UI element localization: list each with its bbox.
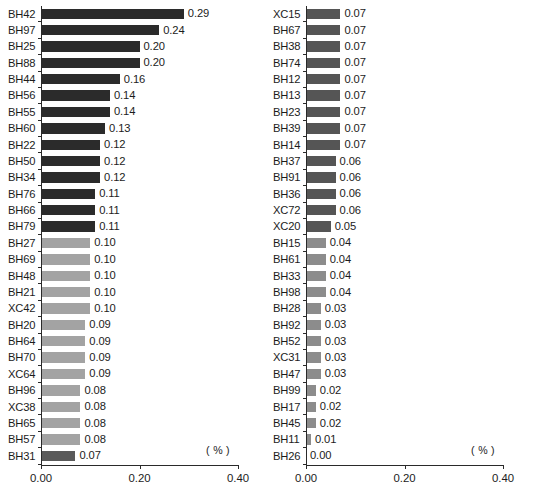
bar-track: 0.03 xyxy=(306,334,525,350)
bar-value-label: 0.04 xyxy=(330,271,351,282)
bar-row: BH380.07 xyxy=(273,39,525,55)
bar-value-label: 0.02 xyxy=(320,418,341,429)
bar-row: BH960.08 xyxy=(8,383,260,399)
bar-row: BH480.10 xyxy=(8,268,260,284)
bar-value-label: 0.02 xyxy=(320,385,341,396)
bar-row: BH140.07 xyxy=(273,137,525,153)
bar-row: XC380.08 xyxy=(8,399,260,415)
chart-panel-left: BH420.29BH970.24BH250.20BH880.20BH440.16… xyxy=(0,0,268,496)
bar-category-label: XC72 xyxy=(273,205,306,216)
bar-track: 0.13 xyxy=(41,121,260,137)
bar-row: XC310.03 xyxy=(273,350,525,366)
bar-category-label: BH98 xyxy=(273,287,306,298)
bar-value-label: 0.16 xyxy=(124,74,145,85)
bar-row: BH790.11 xyxy=(8,219,260,235)
bar-value-label: 0.09 xyxy=(89,320,110,331)
bar xyxy=(41,41,140,51)
x-tick xyxy=(238,465,239,469)
bar-value-label: 0.07 xyxy=(344,9,365,20)
bar-track: 0.07 xyxy=(306,72,525,88)
bar xyxy=(41,107,110,117)
bar-value-label: 0.11 xyxy=(99,221,120,232)
bar-value-label: 0.03 xyxy=(325,369,346,380)
bar-value-label: 0.08 xyxy=(84,418,105,429)
bar-value-label: 0.03 xyxy=(325,336,346,347)
x-tick xyxy=(405,465,406,469)
x-tick xyxy=(140,465,141,469)
bar xyxy=(306,107,340,117)
bar-row: BH150.04 xyxy=(273,235,525,251)
bar-track: 0.07 xyxy=(306,55,525,71)
bar-track: 0.10 xyxy=(41,301,260,317)
bar-category-label: BH76 xyxy=(8,189,41,200)
bar-category-label: BH56 xyxy=(8,90,41,101)
bar xyxy=(306,369,321,379)
bar-value-label: 0.10 xyxy=(94,287,115,298)
bar-track: 0.08 xyxy=(41,415,260,431)
bar xyxy=(41,336,85,346)
bar xyxy=(41,58,140,68)
bar-track: 0.08 xyxy=(41,399,260,415)
bar-track: 0.14 xyxy=(41,104,260,120)
bar xyxy=(41,369,85,379)
bar-category-label: BH60 xyxy=(8,123,41,134)
bar-value-label: 0.08 xyxy=(84,402,105,413)
bar xyxy=(41,123,105,133)
bar-track: 0.06 xyxy=(306,203,525,219)
bar xyxy=(306,172,336,182)
bar-category-label: BH12 xyxy=(273,74,306,85)
bar-value-label: 0.03 xyxy=(325,303,346,314)
bar xyxy=(306,58,340,68)
bar-value-label: 0.12 xyxy=(104,156,125,167)
bar-value-label: 0.07 xyxy=(344,41,365,52)
bar-row: BH170.02 xyxy=(273,399,525,415)
bar-row: BH200.09 xyxy=(8,317,260,333)
bar xyxy=(306,418,316,428)
bar-track: 0.07 xyxy=(306,22,525,38)
bar-value-label: 0.03 xyxy=(325,320,346,331)
bar-track: 0.03 xyxy=(306,317,525,333)
bar-value-label: 0.07 xyxy=(344,58,365,69)
bar xyxy=(306,189,336,199)
bar xyxy=(41,90,110,100)
bar xyxy=(41,172,100,182)
bar-row: BH440.16 xyxy=(8,72,260,88)
bar-row: BH420.29 xyxy=(8,6,260,22)
bar-category-label: BH23 xyxy=(273,107,306,118)
bar-value-label: 0.24 xyxy=(163,25,184,36)
bar-rows-left: BH420.29BH970.24BH250.20BH880.20BH440.16… xyxy=(8,6,260,465)
bar-category-label: BH65 xyxy=(8,418,41,429)
bar-track: 0.04 xyxy=(306,268,525,284)
bar-row: BH280.03 xyxy=(273,301,525,317)
bar-row: XC640.09 xyxy=(8,366,260,382)
bar-track: 0.07 xyxy=(306,137,525,153)
bar-row: BH610.04 xyxy=(273,252,525,268)
bar xyxy=(306,90,340,100)
bar-row: BH120.07 xyxy=(273,72,525,88)
bar-track: 0.20 xyxy=(41,55,260,71)
bar-category-label: XC38 xyxy=(8,402,41,413)
bar-track: 0.09 xyxy=(41,366,260,382)
bar-row: XC150.07 xyxy=(273,6,525,22)
bar-track: 0.06 xyxy=(306,153,525,169)
bar-track: 0.05 xyxy=(306,219,525,235)
bar-category-label: BH15 xyxy=(273,238,306,249)
bar-value-label: 0.08 xyxy=(84,434,105,445)
bar-row: BH360.06 xyxy=(273,186,525,202)
bar-value-label: 0.04 xyxy=(330,254,351,265)
bar-category-label: BH96 xyxy=(8,385,41,396)
bar xyxy=(41,9,184,19)
bar-track: 0.24 xyxy=(41,22,260,38)
bar-category-label: BH20 xyxy=(8,320,41,331)
bar-row: BH230.07 xyxy=(273,104,525,120)
bar-row: BH910.06 xyxy=(273,170,525,186)
bar-row: BH370.06 xyxy=(273,153,525,169)
bar xyxy=(41,303,90,313)
x-tick xyxy=(503,465,504,469)
bar-category-label: BH45 xyxy=(273,418,306,429)
bar-value-label: 0.09 xyxy=(89,369,110,380)
bar-row: BH700.09 xyxy=(8,350,260,366)
bar-row: BH640.09 xyxy=(8,334,260,350)
bar-category-label: BH22 xyxy=(8,140,41,151)
bar xyxy=(41,140,100,150)
